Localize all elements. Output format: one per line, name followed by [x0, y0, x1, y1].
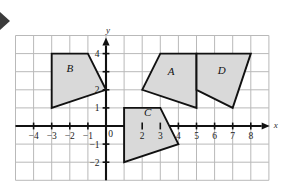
x-tick-label: 3: [158, 131, 163, 141]
left-edge-arrow-marker: [0, 12, 10, 30]
x-tick-label: 6: [212, 131, 217, 141]
shape-polygon-b[interactable]: [52, 54, 106, 108]
figure-root: BADC −4−3−2−102345678421−1−2 xy: [0, 0, 298, 193]
y-tick-label: 4: [95, 49, 100, 59]
x-tick-label: −4: [29, 131, 39, 141]
y-tick-label: −2: [89, 158, 99, 168]
x-tick-label: −2: [65, 131, 75, 141]
x-tick-label: 4: [176, 131, 181, 141]
shape-label-c: C: [144, 106, 152, 118]
left-edge-arrow-marker-glyph: [0, 12, 10, 30]
shape-label-d: D: [217, 64, 226, 76]
y-tick-label: 1: [95, 103, 100, 113]
x-tick-label: 5: [194, 131, 199, 141]
x-tick-label: 2: [140, 131, 145, 141]
coordinate-plane-svg: BADC −4−3−2−102345678421−1−2 xy: [0, 0, 298, 193]
shape-polygon-d[interactable]: [197, 54, 251, 108]
y-tick-label: −1: [89, 140, 99, 150]
x-tick-label: 0: [108, 129, 113, 139]
x-axis-label: x: [273, 120, 278, 130]
y-axis-label: y: [105, 25, 110, 35]
y-tick-label: 2: [95, 85, 100, 95]
shape-label-a: A: [167, 65, 175, 77]
x-tick-label: −3: [47, 131, 57, 141]
y-axis-arrowhead: [102, 37, 109, 45]
shape-label-b: B: [66, 62, 73, 74]
x-tick-label: 8: [248, 131, 253, 141]
x-tick-label: 7: [230, 131, 235, 141]
shape-polygon-a[interactable]: [142, 54, 196, 108]
